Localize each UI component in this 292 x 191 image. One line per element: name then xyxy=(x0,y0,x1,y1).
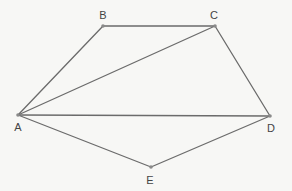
edge-ae xyxy=(18,115,151,167)
vertex-a xyxy=(16,113,20,117)
vertex-label-d: D xyxy=(267,122,275,134)
vertex-d xyxy=(268,114,272,118)
vertex-c xyxy=(213,24,217,28)
vertex-label-e: E xyxy=(146,174,153,186)
vertex-label-b: B xyxy=(99,9,106,21)
edge-ab xyxy=(18,26,103,115)
geometry-diagram: ABCDE xyxy=(0,0,292,191)
edge-cd xyxy=(215,26,270,116)
vertex-labels: ABCDE xyxy=(14,9,275,186)
vertices xyxy=(16,24,272,169)
vertex-b xyxy=(101,24,105,28)
edge-ac xyxy=(18,26,215,115)
vertex-label-c: C xyxy=(210,9,218,21)
vertex-e xyxy=(149,165,153,169)
vertex-label-a: A xyxy=(14,121,22,133)
edge-ad xyxy=(18,115,270,116)
edge-ed xyxy=(151,116,270,167)
edges xyxy=(18,26,270,167)
